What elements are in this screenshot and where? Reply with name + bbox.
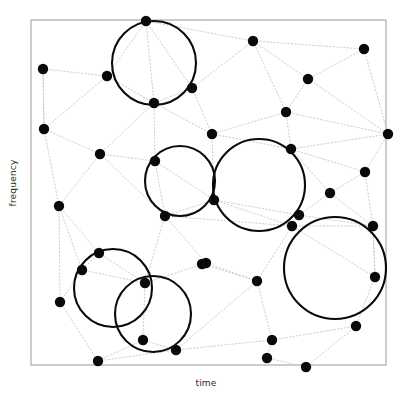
data-point — [325, 188, 335, 198]
data-point — [187, 83, 197, 93]
data-point — [140, 278, 150, 288]
data-point — [281, 107, 291, 117]
data-point — [102, 71, 112, 81]
data-point — [248, 36, 258, 46]
data-point — [94, 248, 104, 258]
data-point — [360, 167, 370, 177]
data-point — [138, 335, 148, 345]
y-axis-label-wrapper: frequency — [0, 0, 26, 366]
data-point — [160, 211, 170, 221]
data-point — [368, 221, 378, 231]
data-point — [359, 44, 369, 54]
data-point — [267, 335, 277, 345]
data-point — [383, 129, 393, 139]
data-point — [77, 265, 87, 275]
data-point — [286, 144, 296, 154]
plot-canvas — [0, 0, 412, 403]
y-axis-label: frequency — [8, 160, 18, 207]
data-point — [95, 149, 105, 159]
data-point — [171, 345, 181, 355]
data-point — [262, 353, 272, 363]
data-point — [197, 259, 207, 269]
data-point — [287, 221, 297, 231]
data-point — [303, 74, 313, 84]
data-point — [54, 201, 64, 211]
data-point — [150, 156, 160, 166]
data-point — [207, 129, 217, 139]
data-point — [370, 272, 380, 282]
x-axis-label: time — [0, 378, 412, 388]
data-point — [93, 356, 103, 366]
data-point — [294, 210, 304, 220]
data-point — [141, 16, 151, 26]
plot-background — [0, 0, 412, 403]
data-point — [351, 321, 361, 331]
data-point — [55, 297, 65, 307]
data-point — [252, 276, 262, 286]
data-point — [149, 98, 159, 108]
data-point — [38, 64, 48, 74]
data-point — [301, 362, 311, 372]
data-point — [209, 195, 219, 205]
data-point — [39, 124, 49, 134]
scatter-triangulation-figure: frequency time — [0, 0, 412, 403]
